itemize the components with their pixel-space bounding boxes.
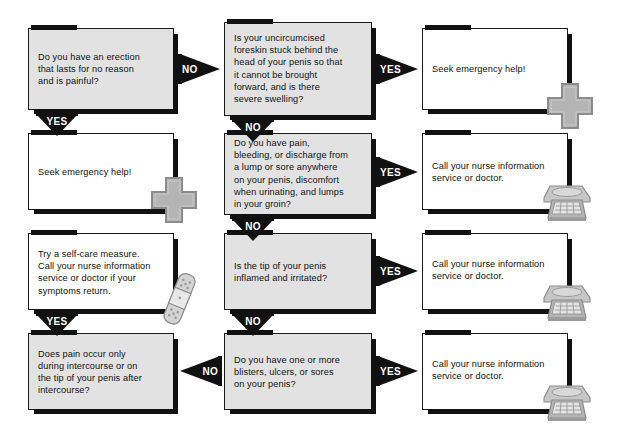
- box-tab: [425, 130, 471, 135]
- connector-label: NO: [245, 122, 261, 133]
- question-box-blisters[interactable]: Do you have one or more blisters, ulcers…: [224, 333, 372, 410]
- box-tab: [425, 330, 471, 335]
- medical-cross-icon: [546, 82, 594, 130]
- question-box-pain-bleeding[interactable]: Do you have pain, bleeding, or discharge…: [224, 133, 372, 215]
- bandage-icon: [160, 270, 200, 328]
- connector-label: NO: [245, 316, 261, 327]
- question-box-erection[interactable]: Do you have an erection that lasts for n…: [28, 28, 174, 110]
- answer-box-self-care[interactable]: Try a self-care measure. Call your nurse…: [28, 233, 174, 310]
- connector-label: YES: [380, 266, 401, 277]
- connector-q3-no[interactable]: NO: [232, 217, 274, 243]
- question-box-foreskin[interactable]: Is your uncircumcised foreskin stuck beh…: [224, 22, 372, 116]
- connector-q3-yes[interactable]: YES: [376, 157, 420, 187]
- box-tab: [425, 25, 471, 30]
- connector-label: YES: [380, 167, 401, 178]
- answer-text: Try a self-care measure. Call your nurse…: [38, 248, 163, 297]
- box-shadow-bottom: [230, 409, 376, 414]
- question-text: Is the tip of your penis inflamed and ir…: [234, 259, 361, 283]
- answer-text: Call your nurse information service or d…: [432, 258, 557, 282]
- connector-label: NO: [245, 221, 261, 232]
- question-text: Do you have an erection that lasts for n…: [38, 51, 163, 88]
- question-box-tip-inflamed[interactable]: Is the tip of your penis inflamed and ir…: [224, 233, 372, 310]
- question-text: Is your uncircumcised foreskin stuck beh…: [234, 32, 361, 105]
- connector-label: YES: [380, 64, 401, 75]
- question-box-pain-intercourse[interactable]: Does pain occur only during intercourse …: [28, 333, 174, 410]
- telephone-icon: [534, 280, 596, 324]
- box-shadow-bottom: [34, 409, 178, 414]
- telephone-icon: [534, 380, 596, 424]
- connector-label: YES: [47, 116, 68, 127]
- connector-a4-yes[interactable]: YES: [36, 312, 78, 338]
- question-text: Does pain occur only during intercourse …: [38, 347, 163, 396]
- question-text: Do you have one or more blisters, ulcers…: [234, 353, 361, 390]
- connector-label: NO: [182, 64, 198, 75]
- connector-q4-yes[interactable]: YES: [376, 256, 420, 286]
- box-tab: [227, 19, 273, 24]
- connector-q2-yes[interactable]: YES: [376, 54, 420, 84]
- connector-q6-no[interactable]: NO: [178, 356, 222, 386]
- answer-text: Call your nurse information service or d…: [432, 358, 557, 382]
- connector-q1-yes[interactable]: YES: [36, 112, 78, 138]
- connector-q6-yes[interactable]: YES: [376, 356, 420, 386]
- connector-label: YES: [47, 316, 68, 327]
- connector-label: NO: [202, 366, 218, 377]
- connector-q2-no[interactable]: NO: [232, 118, 274, 144]
- box-tab: [31, 25, 77, 30]
- box-tab: [425, 230, 471, 235]
- connector-q4-no[interactable]: NO: [232, 312, 274, 338]
- connector-q1-no[interactable]: NO: [178, 54, 222, 84]
- answer-text: Seek emergency help!: [432, 63, 557, 75]
- flowchart-diagram: Do you have an erection that lasts for n…: [0, 0, 620, 429]
- connector-label: YES: [380, 366, 401, 377]
- telephone-icon: [534, 180, 596, 224]
- answer-text: Seek emergency help!: [38, 165, 163, 177]
- question-text: Do you have pain, bleeding, or discharge…: [234, 137, 361, 210]
- medical-cross-icon: [150, 176, 198, 224]
- box-tab: [31, 230, 77, 235]
